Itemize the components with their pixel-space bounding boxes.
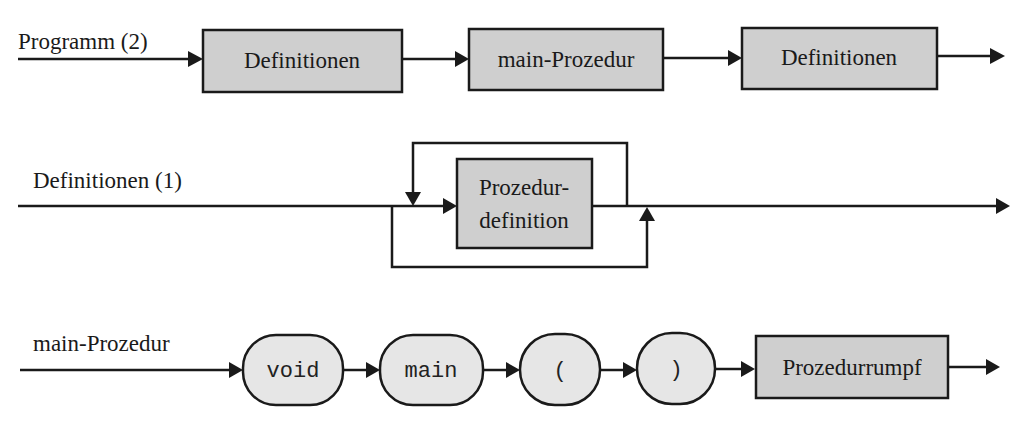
- nonterminal-label-line1: Prozedur-: [479, 175, 569, 200]
- nonterminal-definitionen-2: Definitionen: [742, 28, 937, 89]
- arrow-head-icon: [229, 362, 243, 378]
- terminal-label: main: [405, 359, 458, 384]
- arrow-head-icon: [986, 359, 1000, 375]
- arrow-head-icon: [188, 51, 203, 67]
- nonterminal-main-prozedur: main-Prozedur: [469, 29, 663, 90]
- nonterminal-label: main-Prozedur: [498, 47, 635, 72]
- nonterminal-label: Definitionen: [244, 48, 361, 73]
- nonterminal-prozedurdefinition: Prozedur- definition: [457, 159, 592, 248]
- arrow-head-icon: [990, 48, 1005, 64]
- terminal-open-paren: (: [520, 334, 600, 405]
- arrow-head-icon: [455, 51, 469, 67]
- diagram-definitionen: Definitionen (1) Prozedur- definition: [18, 143, 1010, 267]
- arrow-head-icon: [741, 361, 755, 377]
- nonterminal-definitionen-1: Definitionen: [203, 30, 402, 92]
- arrow-head-icon: [366, 362, 380, 378]
- syntax-diagram-canvas: Programm (2) Definitionen main-Prozedur …: [0, 0, 1036, 437]
- diagram-programm: Programm (2) Definitionen main-Prozedur …: [18, 28, 1005, 92]
- arrow-head-icon: [996, 198, 1010, 214]
- terminal-void: void: [243, 335, 343, 405]
- diagram-title-definitionen: Definitionen (1): [33, 168, 182, 193]
- diagram-main-prozedur: main-Prozedur void main ( ) Pr: [20, 331, 1000, 405]
- terminal-close-paren: ): [637, 333, 715, 404]
- diagram-title-programm: Programm (2): [18, 29, 148, 54]
- terminal-label: void: [267, 359, 320, 384]
- arrow-head-icon: [506, 362, 520, 378]
- arrow-head-icon: [728, 50, 742, 66]
- nonterminal-label: Definitionen: [781, 45, 898, 70]
- arrow-head-icon: [443, 198, 457, 214]
- terminal-label: (: [553, 359, 566, 384]
- arrow-down-head-icon: [405, 192, 421, 206]
- terminal-main: main: [380, 335, 483, 405]
- arrow-up-head-icon: [639, 207, 655, 221]
- nonterminal-label-line2: definition: [479, 208, 569, 233]
- diagram-title-main-prozedur: main-Prozedur: [33, 331, 170, 356]
- nonterminal-label: Prozedurrumpf: [782, 355, 922, 380]
- nonterminal-prozedurrumpf: Prozedurrumpf: [756, 336, 948, 398]
- arrow-head-icon: [623, 362, 637, 378]
- nonterminal-box: [457, 159, 592, 248]
- terminal-label: ): [669, 358, 682, 383]
